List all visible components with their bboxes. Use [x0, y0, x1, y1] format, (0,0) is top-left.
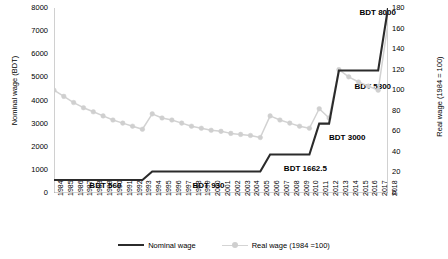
y-tick-left-4000: 4000: [20, 97, 48, 105]
legend-label-nominal-wage: Nominal wage: [148, 241, 196, 250]
y-tick-right-100: 100: [392, 86, 420, 94]
chart-legend: Nominal wage Real wage (1984 =100): [0, 238, 448, 252]
y-tick-left-6000: 6000: [20, 50, 48, 58]
y-tick-left-8000: 8000: [20, 4, 48, 12]
x-tick-2018: 2018: [391, 180, 398, 196]
legend-item-nominal-wage: Nominal wage: [118, 241, 196, 250]
y-tick-right-80: 80: [392, 107, 420, 115]
y-tick-right-120: 120: [392, 66, 420, 74]
y-tick-left-5000: 5000: [20, 73, 48, 81]
y-tick-right-140: 140: [392, 45, 420, 53]
axis-lines: [54, 8, 388, 193]
y-tick-left-7000: 7000: [20, 27, 48, 35]
y-tick-right-20: 20: [392, 168, 420, 176]
plot-svg: [54, 8, 388, 193]
legend-label-real-wage: Real wage (1984 =100): [252, 241, 330, 250]
plot-area: [54, 8, 388, 193]
y-tick-left-1000: 1000: [20, 166, 48, 174]
y-tick-right-60: 60: [392, 127, 420, 135]
y-tick-right-160: 160: [392, 25, 420, 33]
legend-swatch-nominal-wage: [118, 244, 144, 246]
y-tick-left-3000: 3000: [20, 120, 48, 128]
y-tick-left-0: 0: [20, 189, 48, 197]
y-axis-left-title: Nominal wage (BDT): [10, 51, 19, 131]
y-tick-right-40: 40: [392, 148, 420, 156]
series-nominal-wage: [54, 8, 388, 180]
legend-item-real-wage: Real wage (1984 =100): [222, 241, 330, 250]
chart-figure: Nominal wage (BDT) Real wage (1984 = 100…: [0, 0, 448, 259]
legend-swatch-real-wage: [222, 242, 248, 249]
y-tick-left-2000: 2000: [20, 143, 48, 151]
y-axis-right-title: Real wage (1984 = 100): [435, 51, 444, 143]
y-tick-right-180: 180: [392, 4, 420, 12]
